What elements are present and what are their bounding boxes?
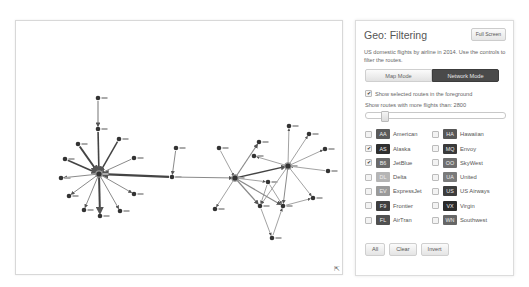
route-edge: [100, 177, 118, 209]
airline-code-badge: UA: [443, 172, 457, 182]
network-mode-button[interactable]: Network Mode: [432, 69, 499, 82]
airport-node[interactable]: [213, 207, 218, 212]
airport-node[interactable]: [252, 154, 257, 159]
airport-node[interactable]: [217, 146, 222, 151]
route-edge: [172, 151, 175, 174]
route-edge: [283, 169, 287, 203]
airline-name: United: [460, 174, 477, 180]
airport-node[interactable]: [63, 157, 68, 162]
resize-corner-icon[interactable]: ⇱: [334, 266, 340, 272]
airline-checkbox[interactable]: [432, 217, 439, 224]
airline-checkbox[interactable]: [432, 145, 439, 152]
airport-node[interactable]: [257, 140, 262, 145]
map-mode-button[interactable]: Map Mode: [365, 69, 432, 82]
hub-airport-node[interactable]: [285, 163, 291, 169]
airline-item-mq[interactable]: MQEnvoy: [432, 143, 499, 154]
airport-node[interactable]: [270, 236, 275, 241]
airport-node[interactable]: [311, 196, 316, 201]
route-edge: [262, 168, 287, 203]
airline-checkbox[interactable]: [365, 188, 372, 195]
airport-node[interactable]: [287, 124, 292, 129]
airline-item-vx[interactable]: VXVirgin: [432, 200, 499, 211]
route-edge: [261, 209, 271, 235]
foreground-option[interactable]: ✔ Show selected routes in the foreground: [365, 90, 472, 97]
airport-node[interactable]: [117, 137, 122, 142]
airline-item-ua[interactable]: UAUnited: [432, 172, 499, 183]
airline-item-ha[interactable]: HAHawaiian: [432, 129, 499, 140]
airline-checkbox[interactable]: ✔: [365, 159, 372, 166]
route-edge: [291, 166, 325, 170]
airline-name: SkyWest: [460, 160, 483, 166]
route-edge: [98, 132, 99, 171]
airport-node[interactable]: [258, 204, 263, 209]
route-edge: [288, 129, 289, 163]
airport-node[interactable]: [170, 175, 175, 180]
airport-node[interactable]: [132, 156, 137, 161]
foreground-checkbox[interactable]: ✔: [365, 90, 372, 97]
fullscreen-button[interactable]: Full Screen: [471, 28, 506, 41]
airport-node[interactable]: [96, 96, 101, 101]
airport-node[interactable]: [174, 146, 179, 151]
airport-node[interactable]: [98, 214, 103, 219]
airline-item-aa[interactable]: AAAmerican: [365, 129, 432, 140]
airline-checkbox[interactable]: [432, 174, 439, 181]
airline-checkbox[interactable]: [432, 159, 439, 166]
airline-checkbox[interactable]: [432, 202, 439, 209]
route-edge: [290, 137, 308, 164]
route-edge: [290, 168, 311, 195]
airline-item-dl[interactable]: DLDelta: [365, 172, 432, 183]
route-edge: [220, 151, 233, 176]
airport-node[interactable]: [96, 127, 101, 132]
airline-checkbox[interactable]: ✔: [365, 145, 372, 152]
airport-node[interactable]: [67, 194, 72, 199]
airline-item-wn[interactable]: WNSouthwest: [432, 215, 499, 226]
airport-node[interactable]: [323, 147, 328, 152]
action-buttons: All Clear Invert: [365, 243, 449, 256]
slider-handle[interactable]: [381, 111, 389, 122]
route-edge: [175, 177, 232, 178]
airport-label: [103, 173, 109, 175]
airline-item-ev[interactable]: EVExpressJet: [365, 186, 432, 197]
airline-checkbox[interactable]: [365, 202, 372, 209]
airport-node[interactable]: [307, 132, 312, 137]
airline-code-badge: MQ: [443, 144, 457, 154]
airline-name: AirTran: [393, 217, 412, 223]
airline-item-fl[interactable]: FLAirTran: [365, 215, 432, 226]
airline-item-us[interactable]: USUS Airways: [432, 186, 499, 197]
hub-airport-node[interactable]: [232, 175, 238, 181]
route-edge: [102, 174, 169, 177]
airline-item-f9[interactable]: F9Frontier: [365, 200, 432, 211]
airport-label: [82, 143, 88, 145]
route-edge: [273, 209, 282, 235]
airport-node[interactable]: [132, 192, 137, 197]
airline-name: Delta: [393, 174, 407, 180]
select-all-button[interactable]: All: [365, 243, 385, 256]
airline-checkbox[interactable]: [432, 188, 439, 195]
airport-node[interactable]: [281, 204, 286, 209]
airline-item-b6[interactable]: ✔B6JetBlue: [365, 158, 432, 169]
airport-label: [292, 165, 298, 167]
invert-button[interactable]: Invert: [421, 243, 449, 256]
clear-button[interactable]: Clear: [389, 243, 416, 256]
route-edge: [286, 199, 310, 205]
airline-checkbox[interactable]: [365, 131, 372, 138]
airport-node[interactable]: [118, 209, 123, 214]
airport-label: [73, 195, 79, 197]
network-graph[interactable]: [16, 21, 342, 274]
airline-checkbox[interactable]: [365, 217, 372, 224]
flight-threshold-slider[interactable]: [365, 112, 506, 119]
airline-name: Southwest: [460, 217, 487, 223]
airline-code-badge: DL: [376, 172, 390, 182]
airport-node[interactable]: [326, 169, 331, 174]
airport-label: [69, 158, 75, 160]
airport-node[interactable]: [76, 142, 81, 147]
airline-checkbox[interactable]: [365, 174, 372, 181]
hub-airport-node[interactable]: [96, 171, 102, 177]
airline-item-oo[interactable]: OOSkyWest: [432, 158, 499, 169]
airport-node[interactable]: [266, 180, 271, 185]
airline-item-as[interactable]: ✔ASAlaska: [365, 143, 432, 154]
network-graph-canvas[interactable]: [15, 20, 343, 275]
airport-node[interactable]: [59, 176, 64, 181]
airport-node[interactable]: [82, 208, 87, 213]
airline-checkbox[interactable]: [432, 131, 439, 138]
